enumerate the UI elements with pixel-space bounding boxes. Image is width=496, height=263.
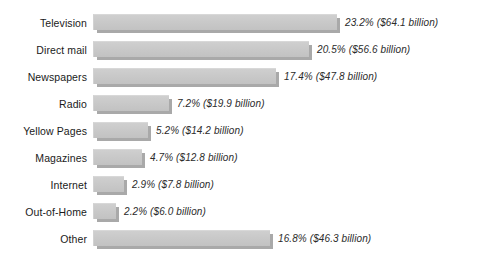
bar-fill [93, 176, 124, 192]
chart-row: Radio7.2% ($19.9 billion) [0, 93, 496, 115]
bar-fill [93, 122, 148, 138]
category-label: Yellow Pages [0, 125, 87, 137]
bar-fill [93, 68, 276, 84]
category-label: Magazines [0, 152, 87, 164]
chart-row: Television23.2% ($64.1 billion) [0, 12, 496, 34]
category-label: Radio [0, 98, 87, 110]
chart-row: Other16.8% ($46.3 billion) [0, 228, 496, 250]
bar [93, 176, 124, 195]
bar [93, 230, 270, 249]
bar-value-label: 2.2% ($6.0 billion) [124, 206, 206, 217]
bar-fill [93, 14, 337, 30]
bar [93, 68, 276, 87]
category-label: Internet [0, 179, 87, 191]
bar-value-label: 2.9% ($7.8 billion) [132, 179, 214, 190]
bar [93, 41, 309, 60]
bar-value-label: 23.2% ($64.1 billion) [345, 17, 438, 28]
chart-row: Newspapers17.4% ($47.8 billion) [0, 66, 496, 88]
bar-fill [93, 149, 142, 165]
chart-row: Direct mail20.5% ($56.6 billion) [0, 39, 496, 61]
bar-value-label: 5.2% ($14.2 billion) [156, 125, 244, 136]
bar [93, 14, 337, 33]
chart-row: Magazines4.7% ($12.8 billion) [0, 147, 496, 169]
category-label: Newspapers [0, 71, 87, 83]
category-label: Direct mail [0, 44, 87, 56]
category-label: Out-of-Home [0, 206, 87, 218]
bar-value-label: 17.4% ($47.8 billion) [284, 71, 377, 82]
bar-fill [93, 95, 169, 111]
bar-fill [93, 41, 309, 57]
bar-value-label: 20.5% ($56.6 billion) [317, 44, 410, 55]
chart-row: Yellow Pages5.2% ($14.2 billion) [0, 120, 496, 142]
bar [93, 122, 148, 141]
bar-value-label: 7.2% ($19.9 billion) [177, 98, 265, 109]
category-label: Television [0, 17, 87, 29]
horizontal-bar-chart: Television23.2% ($64.1 billion)Direct ma… [0, 0, 496, 263]
bar [93, 95, 169, 114]
bar-fill [93, 230, 270, 246]
chart-row: Internet2.9% ($7.8 billion) [0, 174, 496, 196]
bar [93, 203, 116, 222]
bar-fill [93, 203, 116, 219]
category-label: Other [0, 233, 87, 245]
bar [93, 149, 142, 168]
bar-value-label: 4.7% ($12.8 billion) [150, 152, 238, 163]
bar-value-label: 16.8% ($46.3 billion) [278, 233, 371, 244]
chart-row: Out-of-Home2.2% ($6.0 billion) [0, 201, 496, 223]
